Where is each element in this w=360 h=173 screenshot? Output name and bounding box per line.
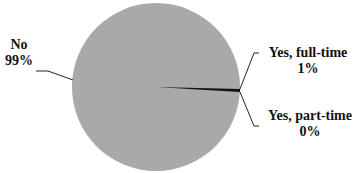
- leader-line-no-2: [48, 71, 73, 80]
- label-full-time: Yes, full-time 1%: [256, 45, 360, 77]
- label-part-time: Yes, part-time 0%: [258, 108, 360, 140]
- pie-chart: [0, 0, 360, 173]
- label-full-time-pct: 1%: [256, 61, 360, 77]
- label-part-time-name: Yes, part-time: [258, 108, 360, 124]
- leader-line-full-time: [240, 53, 254, 89]
- label-no-pct: 99%: [4, 53, 34, 69]
- label-no-name: No: [4, 37, 34, 53]
- label-no: No 99%: [4, 37, 34, 69]
- label-part-time-pct: 0%: [258, 124, 360, 140]
- label-full-time-name: Yes, full-time: [256, 45, 360, 61]
- leader-line-part-time: [240, 92, 254, 126]
